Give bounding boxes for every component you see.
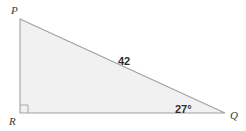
vertex-label-q: Q (230, 110, 238, 121)
geometry-figure-canvas: P R Q 42 27° (0, 0, 246, 131)
vertex-label-p: P (11, 5, 18, 16)
angle-measure-label-q: 27° (175, 104, 192, 115)
vertex-label-r: R (9, 116, 16, 127)
side-length-label-pq: 42 (118, 56, 130, 67)
